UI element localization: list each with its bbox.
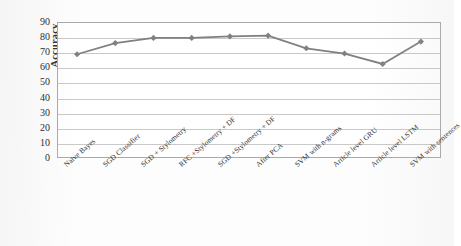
y-axis-tick: 70 (24, 47, 50, 57)
data-point-marker (189, 35, 195, 41)
data-point-marker (112, 40, 118, 46)
y-axis-tick: 0 (24, 153, 50, 163)
data-point-marker (227, 33, 233, 39)
data-point-marker (303, 45, 309, 51)
y-axis-tick: 60 (24, 62, 50, 72)
y-axis-tick: 10 (24, 138, 50, 148)
data-point-marker (265, 33, 271, 39)
series-line (77, 36, 421, 64)
data-point-marker (341, 50, 347, 56)
y-axis-tick: 30 (24, 108, 50, 118)
y-axis-tick: 90 (24, 17, 50, 27)
y-axis-tick-labels: 9080706050403020100 (22, 0, 50, 246)
y-axis-tick: 80 (24, 32, 50, 42)
y-axis-tick: 40 (24, 93, 50, 103)
data-point-marker (150, 35, 156, 41)
x-axis-tick-labels: Naïve BayesSGD ClassifierSGD + Stylometr… (57, 158, 441, 246)
y-axis-tick: 50 (24, 77, 50, 87)
data-point-marker (74, 51, 80, 57)
y-axis-tick: 20 (24, 123, 50, 133)
